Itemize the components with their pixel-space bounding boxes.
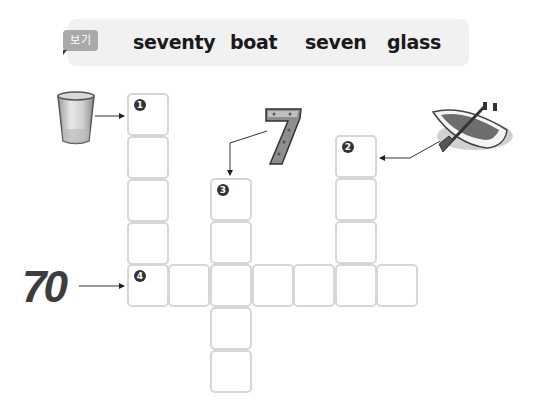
cell-3-2[interactable]	[210, 221, 252, 264]
boat-icon	[425, 100, 515, 158]
cell-2-1[interactable]: 2	[335, 135, 377, 178]
cell-1-1[interactable]: 1	[127, 93, 169, 136]
cell-4-3[interactable]	[210, 264, 252, 307]
cell-4-1[interactable]: 4	[127, 264, 169, 307]
cell-2-3[interactable]	[335, 221, 377, 264]
number-70-icon: 70	[22, 262, 65, 312]
cell-4-2[interactable]	[168, 264, 210, 307]
cell-4-5[interactable]	[293, 264, 335, 307]
clue-number-1: 1	[134, 99, 146, 111]
cell-3-5[interactable]	[210, 350, 252, 393]
clue-number-3: 3	[217, 184, 229, 196]
clue-number-4: 4	[134, 270, 146, 282]
clue-number-2: 2	[342, 141, 354, 153]
clue-arrows	[0, 0, 537, 418]
cell-2-2[interactable]	[335, 178, 377, 221]
cell-1-4[interactable]	[127, 222, 169, 265]
cell-1-2[interactable]	[127, 136, 169, 179]
glass-icon	[55, 91, 97, 147]
cell-4-4[interactable]	[252, 264, 294, 307]
cell-3-1[interactable]: 3	[210, 178, 252, 221]
cell-4-6[interactable]	[335, 264, 377, 307]
cell-3-4[interactable]	[210, 307, 252, 350]
cell-1-3[interactable]	[127, 179, 169, 222]
cell-4-7[interactable]	[376, 264, 418, 307]
number-7-icon	[262, 106, 304, 168]
